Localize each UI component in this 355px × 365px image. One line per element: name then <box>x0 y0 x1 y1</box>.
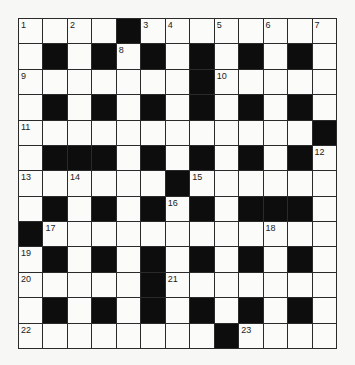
grid-cell[interactable] <box>288 121 311 145</box>
grid-cell[interactable] <box>68 222 91 246</box>
grid-cell[interactable]: 11 <box>19 121 42 145</box>
grid-cell[interactable] <box>166 324 189 348</box>
grid-cell[interactable] <box>166 44 189 68</box>
grid-cell[interactable] <box>43 171 66 195</box>
grid-cell[interactable] <box>117 197 140 221</box>
grid-cell[interactable] <box>288 19 311 43</box>
grid-cell[interactable] <box>68 298 91 322</box>
grid-cell[interactable] <box>190 121 213 145</box>
grid-cell[interactable] <box>166 95 189 119</box>
grid-cell[interactable] <box>68 121 91 145</box>
grid-cell[interactable] <box>19 146 42 170</box>
grid-cell[interactable]: 15 <box>190 171 213 195</box>
grid-cell[interactable]: 21 <box>166 273 189 297</box>
grid-cell[interactable] <box>239 222 262 246</box>
grid-cell[interactable] <box>117 121 140 145</box>
grid-cell[interactable] <box>68 273 91 297</box>
grid-cell[interactable] <box>141 70 164 94</box>
grid-cell[interactable] <box>43 121 66 145</box>
grid-cell[interactable] <box>117 146 140 170</box>
grid-cell[interactable]: 5 <box>215 19 238 43</box>
grid-cell[interactable] <box>239 19 262 43</box>
grid-cell[interactable] <box>215 222 238 246</box>
grid-cell[interactable] <box>190 19 213 43</box>
grid-cell[interactable] <box>313 197 336 221</box>
grid-cell[interactable] <box>19 95 42 119</box>
grid-cell[interactable] <box>43 70 66 94</box>
grid-cell[interactable] <box>19 298 42 322</box>
grid-cell[interactable] <box>215 197 238 221</box>
grid-cell[interactable] <box>117 324 140 348</box>
grid-cell[interactable] <box>68 70 91 94</box>
grid-cell[interactable] <box>215 95 238 119</box>
grid-cell[interactable] <box>215 44 238 68</box>
grid-cell[interactable] <box>117 273 140 297</box>
grid-cell[interactable] <box>43 273 66 297</box>
grid-cell[interactable]: 1 <box>19 19 42 43</box>
grid-cell[interactable] <box>264 171 287 195</box>
grid-cell[interactable] <box>92 273 115 297</box>
grid-cell[interactable]: 18 <box>264 222 287 246</box>
grid-cell[interactable] <box>313 222 336 246</box>
grid-cell[interactable] <box>117 70 140 94</box>
grid-cell[interactable] <box>117 222 140 246</box>
grid-cell[interactable] <box>313 44 336 68</box>
grid-cell[interactable]: 23 <box>239 324 262 348</box>
grid-cell[interactable]: 14 <box>68 171 91 195</box>
grid-cell[interactable] <box>92 70 115 94</box>
grid-cell[interactable] <box>43 19 66 43</box>
grid-cell[interactable]: 9 <box>19 70 42 94</box>
grid-cell[interactable]: 16 <box>166 197 189 221</box>
grid-cell[interactable] <box>239 171 262 195</box>
grid-cell[interactable]: 3 <box>141 19 164 43</box>
grid-cell[interactable] <box>313 70 336 94</box>
grid-cell[interactable]: 12 <box>313 146 336 170</box>
grid-cell[interactable]: 8 <box>117 44 140 68</box>
grid-cell[interactable] <box>92 222 115 246</box>
grid-cell[interactable] <box>264 273 287 297</box>
grid-cell[interactable]: 6 <box>264 19 287 43</box>
grid-cell[interactable]: 19 <box>19 247 42 271</box>
grid-cell[interactable] <box>166 70 189 94</box>
grid-cell[interactable] <box>141 324 164 348</box>
grid-cell[interactable] <box>288 324 311 348</box>
grid-cell[interactable] <box>117 171 140 195</box>
grid-cell[interactable] <box>264 324 287 348</box>
grid-cell[interactable]: 2 <box>68 19 91 43</box>
grid-cell[interactable] <box>68 95 91 119</box>
grid-cell[interactable] <box>117 298 140 322</box>
grid-cell[interactable] <box>166 298 189 322</box>
grid-cell[interactable] <box>215 247 238 271</box>
grid-cell[interactable] <box>288 273 311 297</box>
grid-cell[interactable] <box>264 44 287 68</box>
grid-cell[interactable] <box>190 222 213 246</box>
grid-cell[interactable] <box>92 171 115 195</box>
grid-cell[interactable]: 22 <box>19 324 42 348</box>
grid-cell[interactable] <box>313 273 336 297</box>
grid-cell[interactable] <box>141 171 164 195</box>
grid-cell[interactable] <box>68 247 91 271</box>
grid-cell[interactable] <box>313 298 336 322</box>
grid-cell[interactable] <box>264 298 287 322</box>
grid-cell[interactable] <box>313 95 336 119</box>
grid-cell[interactable] <box>313 247 336 271</box>
grid-cell[interactable] <box>215 171 238 195</box>
grid-cell[interactable] <box>288 70 311 94</box>
grid-cell[interactable]: 4 <box>166 19 189 43</box>
grid-cell[interactable] <box>68 197 91 221</box>
grid-cell[interactable] <box>264 95 287 119</box>
grid-cell[interactable]: 20 <box>19 273 42 297</box>
grid-cell[interactable] <box>215 273 238 297</box>
grid-cell[interactable] <box>166 247 189 271</box>
grid-cell[interactable] <box>117 95 140 119</box>
grid-cell[interactable]: 13 <box>19 171 42 195</box>
grid-cell[interactable] <box>19 44 42 68</box>
grid-cell[interactable] <box>215 298 238 322</box>
grid-cell[interactable] <box>313 324 336 348</box>
grid-cell[interactable]: 10 <box>215 70 238 94</box>
grid-cell[interactable] <box>166 121 189 145</box>
grid-cell[interactable] <box>166 146 189 170</box>
grid-cell[interactable] <box>92 324 115 348</box>
grid-cell[interactable] <box>288 222 311 246</box>
grid-cell[interactable] <box>92 19 115 43</box>
